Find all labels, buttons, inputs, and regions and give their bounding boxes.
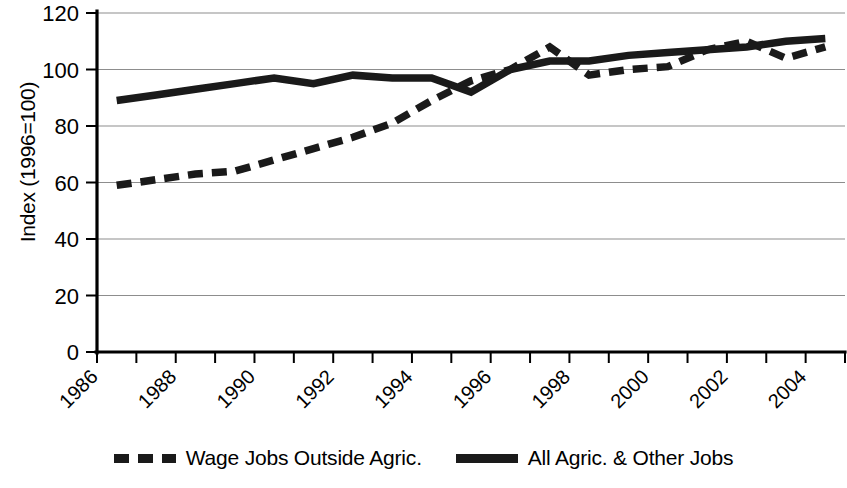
legend-entry-1[interactable]: All Agric. & Other Jobs (456, 446, 733, 470)
x-tick-label: 1998 (527, 365, 574, 412)
gridlines-group (97, 13, 845, 352)
y-tick-labels-group: 020406080100120 (42, 1, 79, 365)
legend-swatch-solid-icon (456, 454, 518, 463)
x-tick-label: 2004 (763, 365, 810, 412)
x-tick-label: 2000 (606, 365, 653, 412)
y-tick-marks-group (86, 13, 97, 352)
y-tick-label: 80 (55, 114, 79, 139)
legend-label: Wage Jobs Outside Agric. (186, 446, 422, 470)
x-tick-labels-group: 1986198819901992199419961998200020022004 (55, 365, 811, 412)
chart-figure: Index (1996=100) 020406080100120 1986198… (0, 0, 847, 488)
x-tick-label: 2002 (685, 365, 732, 412)
x-tick-label: 1990 (212, 365, 259, 412)
legend-entry-0[interactable]: Wage Jobs Outside Agric. (114, 446, 422, 470)
y-tick-label: 60 (55, 171, 79, 196)
plot-area: 020406080100120 198619881990199219941996… (0, 0, 847, 446)
legend-label: All Agric. & Other Jobs (528, 446, 733, 470)
y-tick-label: 20 (55, 284, 79, 309)
x-tick-label: 1992 (291, 365, 338, 412)
x-tick-marks-group (97, 352, 845, 363)
y-tick-label: 120 (42, 1, 79, 26)
y-tick-label: 100 (42, 58, 79, 83)
x-tick-label: 1986 (55, 365, 102, 412)
x-tick-label: 1996 (448, 365, 495, 412)
y-tick-label: 40 (55, 227, 79, 252)
legend-swatch-dashed-icon (114, 454, 176, 463)
chart-legend: Wage Jobs Outside Agric.All Agric. & Oth… (0, 446, 847, 470)
x-tick-label: 1994 (370, 365, 417, 412)
data-series-group (117, 38, 826, 185)
x-tick-label: 1988 (134, 365, 181, 412)
y-tick-label: 0 (67, 340, 79, 365)
series-line-0 (117, 41, 826, 185)
